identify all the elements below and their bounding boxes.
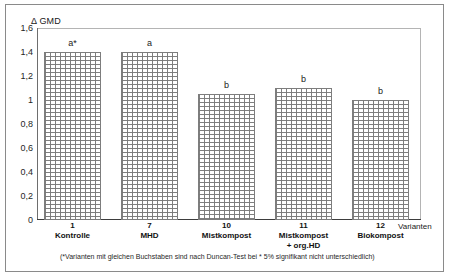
category-number: 7 xyxy=(140,221,158,231)
category-number: 12 xyxy=(357,221,403,231)
x-axis-category: 11Mistkompost+ org.HD xyxy=(279,221,328,251)
x-axis-category: 7MHD xyxy=(140,221,158,241)
y-axis-tick: 0 xyxy=(1,215,33,225)
bar-significance-letter: a* xyxy=(68,38,77,48)
category-name: Mistkompost xyxy=(202,231,251,241)
category-number: 11 xyxy=(279,221,328,231)
category-name: MHD xyxy=(140,231,158,241)
category-name-line2: + org.HD xyxy=(279,241,328,251)
y-axis-tick: 1,6 xyxy=(1,23,33,33)
category-name: Kontrolle xyxy=(55,231,90,241)
y-axis-tick: 0,4 xyxy=(1,167,33,177)
chart-footnote: (*Varianten mit gleichen Buchstaben sind… xyxy=(60,253,375,260)
bar xyxy=(352,100,409,220)
bar-significance-letter: b xyxy=(301,74,306,84)
x-axis-category: 10Mistkompost xyxy=(202,221,251,241)
x-axis-title: Varianten xyxy=(398,222,432,231)
bar xyxy=(198,94,255,220)
y-axis-tick: 1 xyxy=(1,95,33,105)
y-axis-tick: 1,2 xyxy=(1,71,33,81)
y-axis-tick: 0,8 xyxy=(1,119,33,129)
category-name: Biokompost xyxy=(357,231,403,241)
bar-significance-letter: a xyxy=(147,38,152,48)
y-axis-tick-labels: 1,61,41,210,80,60,40,20 xyxy=(0,0,33,278)
bar xyxy=(121,52,178,220)
bars-layer: a*abbb xyxy=(37,28,421,220)
chart-figure: Δ GMD 1,61,41,210,80,60,40,20 a*abbb 1Ko… xyxy=(0,0,451,278)
y-axis-title: Δ GMD xyxy=(31,16,61,26)
bar-significance-letter: b xyxy=(224,80,229,90)
bar xyxy=(275,88,332,220)
y-axis-tick: 0,2 xyxy=(1,191,33,201)
y-axis-tick: 0,6 xyxy=(1,143,33,153)
bar xyxy=(44,52,101,220)
y-axis-tick: 1,4 xyxy=(1,47,33,57)
category-name: Mistkompost xyxy=(279,231,328,241)
x-axis-category: 1Kontrolle xyxy=(55,221,90,241)
category-number: 1 xyxy=(55,221,90,231)
x-axis-category: 12Biokompost xyxy=(357,221,403,241)
category-number: 10 xyxy=(202,221,251,231)
bar-significance-letter: b xyxy=(378,86,383,96)
